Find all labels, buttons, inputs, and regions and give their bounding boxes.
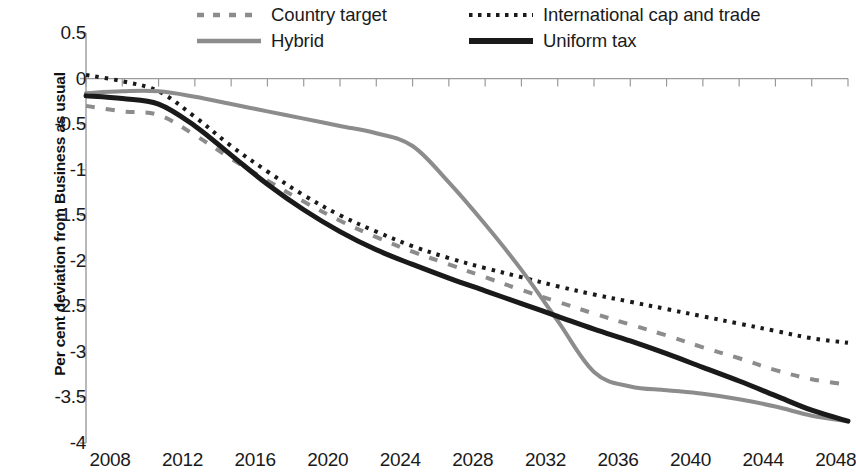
x-tick-label: 2020 <box>307 449 348 471</box>
legend-label-hybrid: Hybrid <box>271 32 324 51</box>
y-tick-label: -2.5 <box>14 295 86 317</box>
series-line-uniform-tax <box>86 96 848 421</box>
y-tick-label: -1 <box>14 159 86 181</box>
series-line-country-target <box>86 106 848 385</box>
y-tick-label: -2 <box>14 250 86 272</box>
legend-label-uniform-tax: Uniform tax <box>543 32 636 51</box>
x-tick-label: 2008 <box>89 449 130 471</box>
chart-legend: Country target International cap and tra… <box>196 4 836 54</box>
legend-item-hybrid: Hybrid <box>196 32 324 51</box>
y-tick-label: -0.5 <box>14 113 86 135</box>
legend-item-country-target: Country target <box>196 6 387 25</box>
legend-item-international-cap-and-trade: International cap and trade <box>468 6 760 25</box>
series-line-international-cap-and-trade <box>86 75 848 343</box>
y-tick-label: 0 <box>14 68 86 90</box>
y-tick-label: 0.5 <box>14 22 86 44</box>
solid-black-line-swatch <box>468 34 534 48</box>
y-tick-label: -3 <box>14 341 86 363</box>
legend-label-country-target: Country target <box>271 6 387 25</box>
y-axis-tick-labels: 0.50-0.5-1-1.5-2-2.5-3-3.5-4 <box>0 0 86 475</box>
y-tick-label: -4 <box>14 432 86 454</box>
solid-gray-line-swatch <box>196 34 262 48</box>
x-tick-label: 2016 <box>235 449 276 471</box>
x-tick-label: 2048 <box>815 449 856 471</box>
dashed-gray-line-swatch <box>196 8 262 22</box>
dotted-black-line-swatch <box>468 8 534 22</box>
x-tick-label: 2040 <box>670 449 711 471</box>
x-tick-label: 2024 <box>380 449 421 471</box>
x-tick-label: 2032 <box>525 449 566 471</box>
y-tick-label: -3.5 <box>14 386 86 408</box>
legend-item-uniform-tax: Uniform tax <box>468 32 636 51</box>
x-tick-label: 2044 <box>743 449 784 471</box>
x-tick-label: 2028 <box>452 449 493 471</box>
y-tick-label: -1.5 <box>14 204 86 226</box>
legend-label-international-cap-and-trade: International cap and trade <box>543 6 760 25</box>
x-tick-label: 2036 <box>597 449 638 471</box>
x-tick-label: 2012 <box>162 449 203 471</box>
